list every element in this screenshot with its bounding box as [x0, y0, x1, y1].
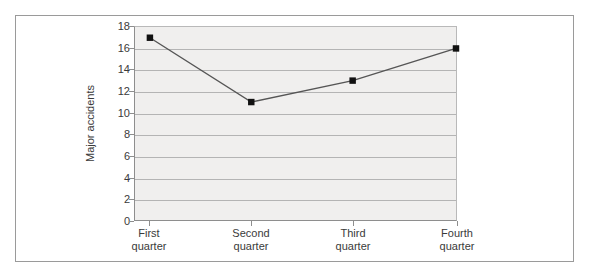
data-series-layer — [135, 27, 456, 220]
x-axis-tick-mark — [251, 221, 252, 226]
y-axis-tick-mark — [129, 221, 134, 222]
y-axis-tick-label: 16 — [104, 42, 130, 53]
x-axis-tick-label: Second quarter — [206, 227, 296, 253]
figure-frame: Major accidents 024681012141618 First qu… — [15, 15, 574, 262]
y-axis-tick-label: 6 — [104, 151, 130, 162]
x-axis-tick-label: First quarter — [104, 227, 194, 253]
y-axis-tick-label: 10 — [104, 107, 130, 118]
x-axis-tick-mark — [149, 221, 150, 226]
data-point-marker — [248, 99, 254, 105]
y-axis-tick-label: 18 — [104, 21, 130, 32]
x-axis-tick-label: Third quarter — [308, 227, 398, 253]
x-axis-tick-label: Fourth quarter — [412, 227, 502, 253]
data-point-marker — [453, 45, 459, 51]
y-axis-tick-label: 4 — [104, 172, 130, 183]
series-markers — [147, 35, 460, 106]
data-point-marker — [349, 77, 355, 83]
y-axis-tick-label: 2 — [104, 194, 130, 205]
plot-area — [134, 26, 457, 221]
y-axis-tick-label: 14 — [104, 64, 130, 75]
y-axis-tick-label: 8 — [104, 129, 130, 140]
y-axis-tick-label: 0 — [104, 216, 130, 227]
x-axis-tick-mark — [353, 221, 354, 226]
series-line — [150, 38, 456, 102]
line-chart: Major accidents 024681012141618 First qu… — [16, 16, 575, 263]
x-axis-tick-mark — [457, 221, 458, 226]
y-axis-tick-labels: 024681012141618 — [104, 26, 130, 221]
data-point-marker — [147, 35, 153, 41]
y-axis-title: Major accidents — [82, 26, 98, 221]
y-axis-tick-label: 12 — [104, 86, 130, 97]
